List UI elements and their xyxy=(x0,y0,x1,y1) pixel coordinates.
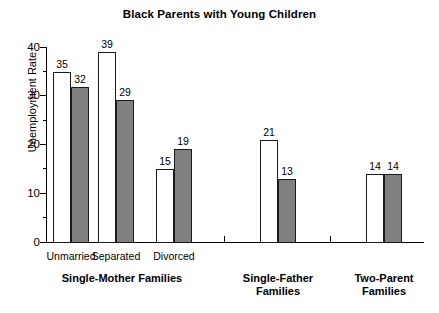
bar-separated-white xyxy=(98,52,116,243)
y-tick-label-10: 10 xyxy=(14,188,40,199)
bar-value-divorced-gray: 19 xyxy=(167,136,199,146)
bar-two-parent-gray xyxy=(384,174,402,243)
bar-two-parent-white xyxy=(366,174,384,243)
y-major-tick-30 xyxy=(40,95,46,96)
y-minor-tick-25 xyxy=(43,120,47,121)
bar-single-father-white xyxy=(260,140,278,243)
y-tick-label-40: 40 xyxy=(14,42,40,53)
category-label-divorced: Divorced xyxy=(132,250,216,262)
y-axis-line xyxy=(46,47,47,243)
chart-title: Black Parents with Young Children xyxy=(0,8,439,20)
group-label-two-parent: Two-Parent Families xyxy=(325,272,439,298)
y-minor-tick-5 xyxy=(43,217,47,218)
bar-divorced-white xyxy=(156,169,174,243)
y-major-tick-20 xyxy=(40,144,46,145)
group-label-single-mother: Single-Mother Families xyxy=(42,272,202,285)
bar-value-single-father-white: 21 xyxy=(253,127,285,137)
bar-value-unmarried-white: 35 xyxy=(46,59,78,69)
y-minor-tick-35 xyxy=(43,71,47,72)
y-tick-label-30: 30 xyxy=(14,90,40,101)
y-major-tick-40 xyxy=(40,47,46,48)
bar-unmarried-white xyxy=(53,72,71,243)
bar-value-separated-white: 39 xyxy=(91,39,123,49)
bar-value-unmarried-gray: 32 xyxy=(64,74,96,84)
y-tick-label-0: 0 xyxy=(14,237,40,248)
bar-unmarried-gray xyxy=(71,87,89,243)
x-group-tick-1 xyxy=(224,236,225,242)
y-minor-tick-15 xyxy=(43,168,47,169)
bar-separated-gray xyxy=(116,100,134,243)
y-tick-label-20: 20 xyxy=(14,139,40,150)
bar-value-two-parent-gray: 14 xyxy=(377,161,409,171)
group-label-single-father: Single-Father Families xyxy=(219,272,337,298)
y-major-tick-10 xyxy=(40,193,46,194)
bar-chart: Black Parents with Young Children Unempl… xyxy=(0,0,439,313)
x-group-tick-2 xyxy=(330,236,331,242)
bar-divorced-gray xyxy=(174,149,192,243)
bar-single-father-gray xyxy=(278,179,296,243)
y-major-tick-0 xyxy=(40,242,46,243)
bar-value-single-father-gray: 13 xyxy=(271,166,303,176)
bar-value-separated-gray: 29 xyxy=(109,87,141,97)
